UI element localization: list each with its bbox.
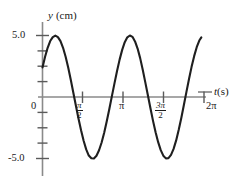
origin-label: 0 xyxy=(31,101,36,112)
fraction-three-pi-over-2: 3π 2 xyxy=(155,101,166,121)
plot-area xyxy=(0,0,242,187)
y-tick-label-negative-five: -5.0 xyxy=(8,153,25,164)
graph-figure: y(cm) t(s) 5.0 -5.0 0 π 2 π 3π 2 2π xyxy=(0,0,242,187)
y-axis-symbol: y xyxy=(48,9,53,21)
x-tick-label-two-pi: 2π xyxy=(206,101,217,112)
y-axis-title: y(cm) xyxy=(48,10,77,21)
fraction-denominator: 2 xyxy=(155,111,166,120)
x-tick-label-pi: π xyxy=(119,101,124,112)
x-axis-unit: (s) xyxy=(217,85,229,97)
fraction-denominator: 2 xyxy=(76,111,83,120)
y-tick-label-positive-five: 5.0 xyxy=(12,30,25,41)
x-axis-title: t(s) xyxy=(214,86,229,97)
fraction-pi-over-2: π 2 xyxy=(76,101,83,121)
y-axis-unit: (cm) xyxy=(56,9,77,21)
x-tick-label-three-pi-over-2: 3π 2 xyxy=(155,101,166,121)
x-tick-label-pi-over-2: π 2 xyxy=(76,101,83,121)
